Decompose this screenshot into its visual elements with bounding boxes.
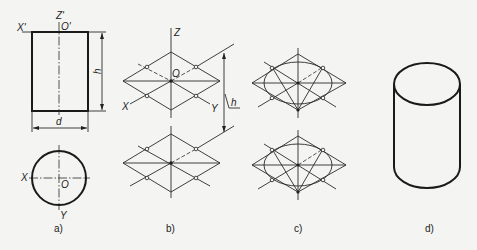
tangent-point: [270, 148, 274, 152]
label-y: Y: [60, 210, 68, 221]
construction-line: [272, 67, 298, 110]
tangent-point: [321, 178, 325, 182]
label-x: X: [121, 101, 129, 112]
top-extension-line: [196, 44, 234, 67]
hidden-line: [298, 67, 323, 83]
tangent-point: [321, 66, 325, 70]
bottom-x-axis: [130, 163, 171, 186]
label-o: O: [172, 68, 180, 79]
tangent-point: [270, 66, 274, 70]
construction-line: [298, 149, 323, 192]
construction-line: [272, 149, 298, 192]
construction-line: [264, 62, 336, 107]
center-point: [296, 190, 299, 193]
bottom-hidden: [171, 149, 196, 163]
label-o: O: [61, 179, 69, 190]
bottom-y-axis: [138, 146, 210, 186]
caption-d: d): [425, 223, 434, 234]
front-view-rectangle: [32, 32, 88, 111]
panel-b-isometric-rhombi: Z O X Y h b): [121, 27, 240, 234]
bottom-extension-line: [196, 126, 234, 149]
x-axis-segment: [130, 81, 171, 104]
caption-b: b): [166, 223, 175, 234]
caption-a: a): [54, 223, 63, 234]
x-axis-hidden: [138, 64, 171, 81]
tangent-point: [194, 176, 198, 180]
panel-d-isometric-cylinder: d): [394, 63, 460, 234]
arrow-icon: [100, 104, 104, 110]
tangent-point: [270, 96, 274, 100]
tangent-point: [145, 94, 149, 98]
arrow-icon: [100, 33, 104, 39]
tangent-point: [194, 94, 198, 98]
origin-point: [169, 79, 173, 83]
tangent-point: [194, 65, 198, 69]
origin-point: [169, 161, 173, 165]
label-h: h: [92, 68, 103, 74]
center-point: [296, 108, 299, 111]
label-d: d: [56, 116, 62, 127]
cylinder-top-ellipse: [394, 63, 460, 105]
panel-a-orthographic-views: X' Z' O' h d X Y O a): [16, 10, 106, 234]
arrow-icon: [33, 126, 39, 130]
hidden-line: [298, 149, 323, 165]
arrow-icon: [222, 53, 226, 59]
caption-c: c): [294, 223, 302, 234]
label-x-prime: X': [16, 22, 27, 33]
label-y: Y: [211, 103, 219, 114]
panel-c-ellipse-construction: c): [252, 48, 346, 234]
cylinder-bottom-arc: [394, 167, 460, 188]
tangent-point: [270, 178, 274, 182]
tangent-point: [321, 96, 325, 100]
center-point: [296, 163, 299, 166]
tangent-point: [321, 148, 325, 152]
label-x: X: [20, 172, 28, 183]
label-h: h: [231, 97, 237, 108]
tangent-point: [145, 65, 149, 69]
label-z: Z: [173, 27, 181, 38]
label-o-prime: O': [61, 21, 72, 32]
construction-line: [264, 144, 336, 189]
y-axis-segment: [171, 81, 210, 104]
tangent-point: [145, 176, 149, 180]
tangent-point: [194, 147, 198, 151]
construction-line: [298, 67, 323, 110]
arrow-icon: [81, 126, 87, 130]
label-z-prime: Z': [55, 10, 65, 21]
tangent-point: [145, 147, 149, 151]
center-point: [296, 81, 299, 84]
cylinder-isometric-construction-figure: X' Z' O' h d X Y O a) Z: [0, 0, 477, 250]
